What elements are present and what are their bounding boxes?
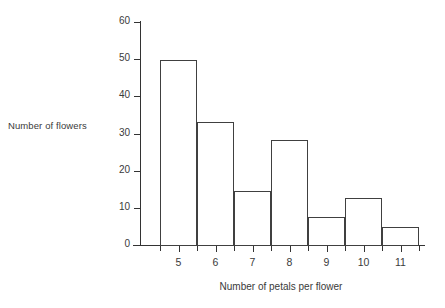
x-axis-tick [382,246,383,251]
x-axis-tick [253,246,254,252]
x-axis-tick-label: 6 [204,256,228,268]
x-axis-tick [271,246,272,251]
x-axis-tick [401,246,402,252]
x-axis-tick [327,246,328,252]
x-axis-tick-label: 10 [352,256,376,268]
bar [160,60,197,246]
x-axis-tick [419,246,420,251]
bar [271,140,308,246]
x-axis-tick-label: 5 [167,256,191,268]
x-axis-tick [308,246,309,251]
x-axis-tick [216,246,217,252]
bar [308,217,345,246]
bar [197,122,234,247]
bar [234,191,271,246]
x-axis-tick [160,246,161,251]
bars-layer [0,0,445,246]
x-axis-tick-label: 9 [315,256,339,268]
bar [345,198,382,246]
x-axis-tick [345,246,346,251]
x-axis-tick [290,246,291,252]
x-axis-tick [234,246,235,251]
x-axis-tick [364,246,365,252]
x-axis-tick-label: 11 [389,256,413,268]
x-axis-tick [197,246,198,251]
x-axis-tick [179,246,180,252]
x-axis-title: Number of petals per flower [140,281,422,292]
x-axis-tick-label: 8 [278,256,302,268]
histogram-chart: Number of flowers 0102030405060 56789101… [0,0,445,308]
x-axis-tick-label: 7 [241,256,265,268]
bar [382,227,419,246]
